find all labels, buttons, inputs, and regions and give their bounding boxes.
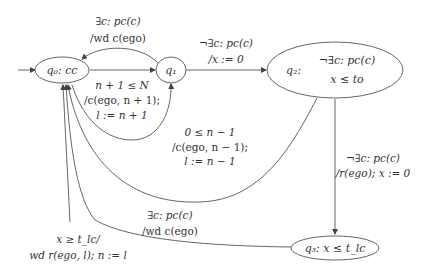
state-q3[interactable]: q₃: x ≤ t_lc <box>291 236 379 260</box>
label-q1-q0-action: /wd c(ego) <box>90 32 146 44</box>
label-q3-q0-wd-guard: ∃c: pc(c) <box>147 209 192 221</box>
label-q1-q0-guard: ∃c: pc(c) <box>95 15 140 27</box>
label-q0-q1-assign: l := n + 1 <box>96 109 147 121</box>
label-timeout-action: wd r(ego, l); n := l <box>29 249 127 261</box>
label-loop-action: /c(ego, n − 1); <box>172 141 248 153</box>
state-q1[interactable]: q₁ <box>156 57 186 83</box>
label-q1-q2-action: /x := 0 <box>207 53 243 65</box>
state-q0-label: q₀: cc <box>47 64 78 77</box>
label-q3-q0-wd-action: /wd c(ego) <box>142 225 198 237</box>
label-q0-q1-guard: n + 1 ≤ N <box>95 79 149 91</box>
state-q0[interactable]: q₀: cc <box>35 57 89 83</box>
state-q3-label: q₃: x ≤ t_lc <box>305 242 366 255</box>
state-diagram: q₀: cc q₁ q₂: ¬∃c: pc(c) x ≤ to q₃: x ≤ … <box>0 0 434 273</box>
label-loop-guard: 0 ≤ n − 1 <box>184 126 235 138</box>
edge-q1-q0 <box>82 48 158 63</box>
label-timeout-guard: x ≥ t_lc/ <box>56 233 101 246</box>
label-q2-q3-action: /r(ego); x := 0 <box>335 167 411 179</box>
label-q2-q3-guard: ¬∃c: pc(c) <box>346 152 400 164</box>
state-q2-label: q₂: <box>286 64 301 77</box>
label-loop-assign: l := n − 1 <box>184 155 235 167</box>
label-q0-q1-action: /c(ego, n + 1); <box>84 94 160 106</box>
edge-q3-q0-timeout <box>63 85 70 222</box>
state-q2-invariant-1: ¬∃c: pc(c) <box>319 54 376 67</box>
state-q2[interactable]: q₂: ¬∃c: pc(c) x ≤ to <box>267 42 403 98</box>
state-q2-invariant-2: x ≤ to <box>330 73 364 86</box>
label-q1-q2-guard: ¬∃c: pc(c) <box>199 37 253 49</box>
state-q1-label: q₁ <box>165 64 176 77</box>
